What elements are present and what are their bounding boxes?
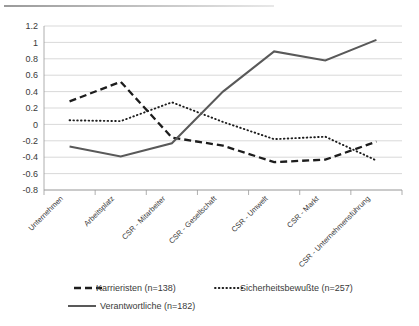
x-axis-tick-label: Arbeitsplatz: [82, 194, 116, 228]
y-axis-tick-label: -0.8: [22, 185, 38, 195]
x-axis-tick-label: Unternehmen: [26, 194, 65, 233]
y-axis-tick-label: 0.2: [25, 103, 38, 113]
series-line-dotted: [70, 102, 377, 160]
legend-label: Karrieristen (n=138): [96, 283, 176, 293]
y-axis-tick-label: 0.6: [25, 70, 38, 80]
x-axis-tick-label: CSR - Gesellschaft: [167, 193, 219, 245]
chart-container: 1.210.80.60.40.20-0.2-0.4-0.6-0.8 Untern…: [0, 0, 419, 326]
y-axis-tick-label: 1: [33, 38, 38, 48]
y-axis-tick-label: -0.6: [22, 169, 38, 179]
line-chart: 1.210.80.60.40.20-0.2-0.4-0.6-0.8 Untern…: [0, 0, 419, 326]
y-axis-tick-label: 0: [33, 120, 38, 130]
y-axis-tick-label: 0.4: [25, 87, 38, 97]
x-axis-tick-label: CSR - Mitarbeiter: [120, 194, 168, 242]
y-axis-tick-labels: 1.210.80.60.40.20-0.2-0.4-0.6-0.8: [22, 21, 38, 195]
x-axis-tick-label: CSR - Umwelt: [230, 193, 271, 234]
y-axis-tick-label: 1.2: [25, 21, 38, 31]
data-series-group: [70, 40, 377, 162]
x-axis-tick-labels: UnternehmenArbeitsplatzCSR - Mitarbeiter…: [26, 193, 371, 269]
legend-label: Sicherheitsbewußte (n=257): [240, 283, 353, 293]
y-axis-tick-label: -0.2: [22, 136, 38, 146]
y-axis-tick-label: 0.8: [25, 54, 38, 64]
y-axis-tick-label: -0.4: [22, 152, 38, 162]
legend-label: Verantwortliche (n=182): [100, 301, 195, 311]
chart-legend: Karrieristen (n=138)Sicherheitsbewußte (…: [68, 283, 353, 311]
x-axis-tick-label: CSR - Markt: [285, 193, 321, 229]
